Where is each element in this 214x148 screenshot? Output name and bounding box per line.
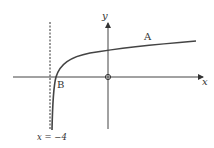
x-axis-label: x [202, 76, 208, 87]
point-b-label: B [57, 79, 64, 90]
point-a-label: A [143, 31, 152, 42]
graph-diagram: y x A B x = −4 [0, 0, 214, 148]
log-curve [52, 41, 196, 130]
asymptote-label: x = −4 [37, 132, 67, 142]
y-axis-label: y [101, 10, 108, 21]
